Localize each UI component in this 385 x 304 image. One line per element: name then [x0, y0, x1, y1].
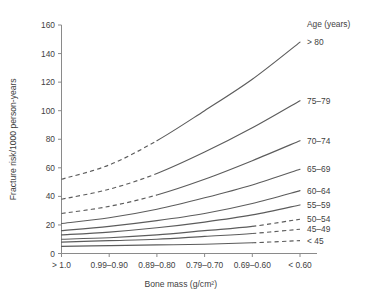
- y-axis-title: Fracture risk/1000 person-years: [8, 78, 18, 200]
- y-axis-tick-label: 40: [46, 191, 56, 201]
- curve-series: [62, 42, 301, 246]
- x-axis-tick-label: 0.69–0.60: [234, 260, 272, 270]
- series-line-dashed: [252, 229, 300, 233]
- chart-canvas: 020406080100120140160> 1.00.99–0.900.89–…: [0, 0, 385, 304]
- series-line: [62, 169, 301, 223]
- y-axis-tick-label: 0: [50, 249, 55, 259]
- chart-labels: 020406080100120140160> 1.00.99–0.900.89–…: [8, 19, 350, 289]
- y-axis-tick-label: 80: [46, 134, 56, 144]
- y-axis-tick-label: 60: [46, 163, 56, 173]
- series-line: [62, 243, 253, 247]
- x-axis-tick-label: 0.79–0.70: [186, 260, 224, 270]
- x-axis-tick-label: 0.99–0.90: [91, 260, 129, 270]
- legend-title: Age (years): [307, 19, 350, 29]
- x-axis-tick-label: > 1.0: [52, 260, 71, 270]
- series-label-2: 75–79: [307, 96, 331, 106]
- series-label-4: 65–69: [307, 164, 331, 174]
- series-label-7: 50–54: [307, 214, 331, 224]
- y-axis-tick-label: 140: [41, 49, 55, 59]
- y-axis-tick-label: 20: [46, 220, 56, 230]
- x-axis-tick-label: 0.89–0.80: [138, 260, 176, 270]
- series-label-5: 60–64: [307, 186, 331, 196]
- series-label-8: 45–49: [307, 224, 331, 234]
- x-axis-title: Bone mass (g/cm²): [144, 279, 217, 289]
- series-line: [157, 141, 300, 195]
- y-axis-tick-label: 160: [41, 20, 55, 30]
- series-label-1: > 80: [307, 37, 324, 47]
- series-line: [157, 101, 300, 174]
- series-label-6: 55–59: [307, 200, 331, 210]
- y-axis-tick-label: 120: [41, 77, 55, 87]
- series-label-9: < 45: [307, 236, 324, 246]
- series-label-3: 70–74: [307, 136, 331, 146]
- series-line-dashed: [62, 141, 157, 180]
- series-line-dashed: [252, 219, 300, 226]
- series-line: [157, 42, 300, 141]
- fracture-risk-chart: 020406080100120140160> 1.00.99–0.900.89–…: [0, 0, 385, 304]
- series-line-dashed: [62, 174, 157, 200]
- y-axis-tick-label: 100: [41, 106, 55, 116]
- series-line-dashed: [252, 241, 300, 243]
- series-line-dashed: [62, 195, 157, 214]
- x-axis-tick-label: < 0.60: [288, 260, 312, 270]
